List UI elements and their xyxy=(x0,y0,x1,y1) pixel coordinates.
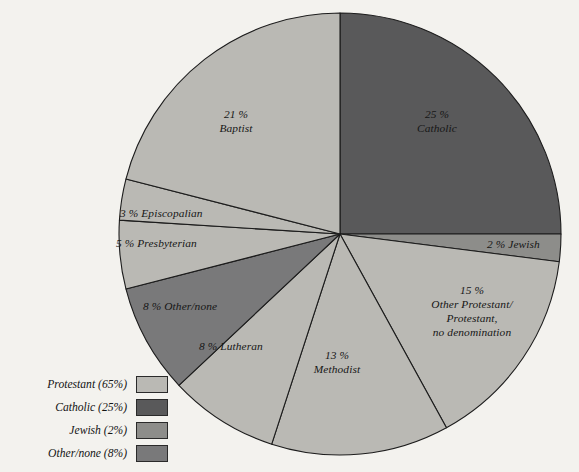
legend-item-protestant[interactable]: Protestant (65%) xyxy=(8,373,168,396)
legend-swatch-catholic xyxy=(136,399,168,416)
legend-item-jewish[interactable]: Jewish (2%) xyxy=(8,419,168,442)
legend-label: Catholic (25%) xyxy=(55,401,127,414)
legend-swatch-jewish xyxy=(136,422,168,439)
pie-slice-catholic[interactable] xyxy=(340,13,561,234)
legend-label: Other/none (8%) xyxy=(48,447,127,460)
legend-swatch-protestant xyxy=(136,376,168,393)
pie-chart: 25 % Catholic2 % Jewish15 % Other Protes… xyxy=(0,0,579,472)
legend-item-catholic[interactable]: Catholic (25%) xyxy=(8,396,168,419)
legend-item-other-none[interactable]: Other/none (8%) xyxy=(8,442,168,465)
chart-legend: Protestant (65%)Catholic (25%)Jewish (2%… xyxy=(8,373,168,465)
legend-label: Jewish (2%) xyxy=(69,424,127,437)
legend-label: Protestant (65%) xyxy=(47,378,127,391)
legend-swatch-other-none xyxy=(136,445,168,462)
pie-slices-group xyxy=(119,13,561,455)
